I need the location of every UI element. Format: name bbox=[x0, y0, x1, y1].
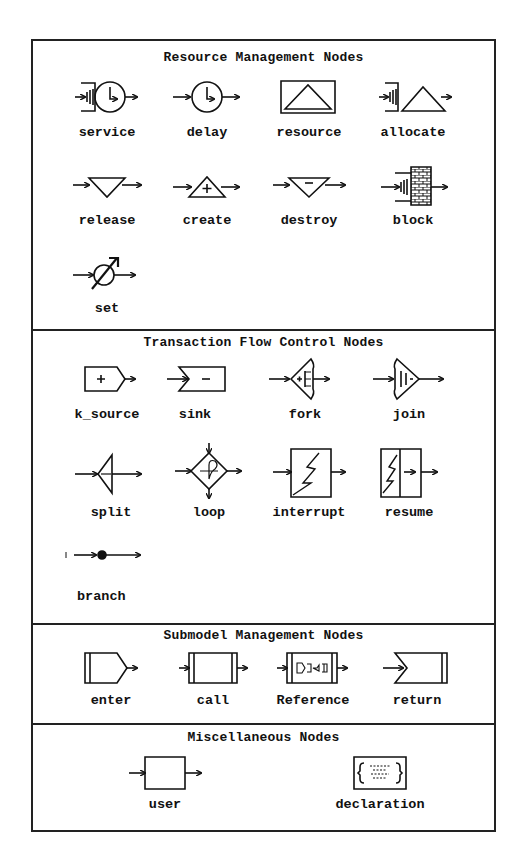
join-icon bbox=[369, 357, 449, 401]
block-icon bbox=[373, 163, 453, 207]
node-set[interactable]: set bbox=[57, 251, 157, 316]
node-palette-frame: Resource Management Nodes service delay bbox=[31, 39, 496, 832]
node-label: user bbox=[115, 797, 215, 812]
release-icon bbox=[67, 163, 147, 207]
section-title: Resource Management Nodes bbox=[33, 50, 494, 65]
section-transaction-flow-control: Transaction Flow Control Nodes k_source … bbox=[33, 329, 494, 623]
node-label: Reference bbox=[263, 693, 363, 708]
node-label: allocate bbox=[363, 125, 463, 140]
node-label: destroy bbox=[259, 213, 359, 228]
branch-icon bbox=[62, 543, 152, 567]
node-label: declaration bbox=[330, 797, 430, 812]
node-label: create bbox=[157, 213, 257, 228]
node-label: service bbox=[57, 125, 157, 140]
resume-icon bbox=[369, 445, 449, 499]
node-create[interactable]: create bbox=[157, 163, 257, 228]
node-label: release bbox=[57, 213, 157, 228]
create-icon bbox=[167, 163, 247, 207]
section-title: Miscellaneous Nodes bbox=[33, 730, 494, 745]
service-icon bbox=[67, 75, 147, 119]
node-k-source[interactable]: k_source bbox=[57, 357, 157, 422]
node-allocate[interactable]: allocate bbox=[363, 75, 463, 140]
node-label: k_source bbox=[57, 407, 157, 422]
section-miscellaneous: Miscellaneous Nodes user declaration bbox=[33, 723, 494, 832]
node-enter[interactable]: enter bbox=[61, 649, 161, 708]
resource-icon bbox=[269, 75, 349, 119]
node-sink[interactable]: sink bbox=[145, 357, 245, 422]
declaration-icon bbox=[340, 755, 420, 791]
source-icon bbox=[67, 357, 147, 401]
node-release[interactable]: release bbox=[57, 163, 157, 228]
node-loop[interactable]: loop bbox=[159, 443, 259, 520]
allocate-icon bbox=[373, 75, 453, 119]
return-icon bbox=[377, 649, 457, 687]
node-label: delay bbox=[157, 125, 257, 140]
node-label: loop bbox=[159, 505, 259, 520]
section-resource-management: Resource Management Nodes service delay bbox=[33, 41, 494, 329]
node-resource[interactable]: resource bbox=[259, 75, 359, 140]
enter-icon bbox=[71, 649, 151, 687]
node-fork[interactable]: fork bbox=[255, 357, 355, 422]
node-join[interactable]: join bbox=[359, 357, 459, 422]
delay-icon bbox=[167, 75, 247, 119]
loop-icon bbox=[169, 443, 249, 499]
node-block[interactable]: block bbox=[363, 163, 463, 228]
fork-icon bbox=[265, 357, 345, 401]
node-return[interactable]: return bbox=[367, 649, 467, 708]
node-label: sink bbox=[145, 407, 245, 422]
destroy-icon bbox=[269, 163, 349, 207]
section-title: Transaction Flow Control Nodes bbox=[33, 335, 494, 350]
section-title: Submodel Management Nodes bbox=[33, 628, 494, 643]
node-label: join bbox=[359, 407, 459, 422]
node-label: block bbox=[363, 213, 463, 228]
node-label: call bbox=[163, 693, 263, 708]
node-label: enter bbox=[61, 693, 161, 708]
node-user[interactable]: user bbox=[115, 755, 215, 812]
node-reference[interactable]: Reference bbox=[263, 649, 363, 708]
split-icon bbox=[71, 449, 151, 499]
node-declaration[interactable]: declaration bbox=[330, 755, 430, 812]
node-label: resource bbox=[259, 125, 359, 140]
node-label: set bbox=[57, 301, 157, 316]
node-split[interactable]: split bbox=[61, 449, 161, 520]
set-icon bbox=[67, 251, 147, 295]
interrupt-icon bbox=[269, 445, 349, 499]
node-label: fork bbox=[255, 407, 355, 422]
call-icon bbox=[173, 649, 253, 687]
node-label: resume bbox=[359, 505, 459, 520]
node-destroy[interactable]: destroy bbox=[259, 163, 359, 228]
sink-icon bbox=[155, 357, 235, 401]
reference-icon bbox=[273, 649, 353, 687]
section-submodel-management: Submodel Management Nodes enter call bbox=[33, 623, 494, 723]
node-delay[interactable]: delay bbox=[157, 75, 257, 140]
node-resume[interactable]: resume bbox=[359, 445, 459, 520]
node-service[interactable]: service bbox=[57, 75, 157, 140]
node-call[interactable]: call bbox=[163, 649, 263, 708]
node-label: split bbox=[61, 505, 161, 520]
node-label: branch bbox=[57, 589, 157, 604]
node-branch[interactable]: branch bbox=[57, 543, 157, 604]
node-interrupt[interactable]: interrupt bbox=[259, 445, 359, 520]
node-label: interrupt bbox=[259, 505, 359, 520]
user-icon bbox=[125, 755, 205, 791]
node-label: return bbox=[367, 693, 467, 708]
